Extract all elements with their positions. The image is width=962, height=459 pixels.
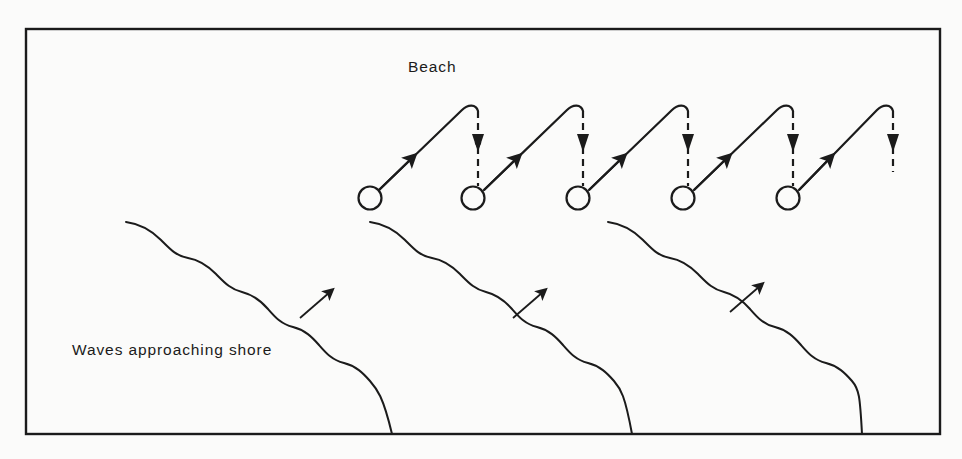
backwash-arrowhead: [577, 134, 589, 152]
swash-uprush-line: [379, 106, 478, 190]
swash-path-group: [359, 106, 900, 210]
sediment-particle: [672, 187, 695, 210]
swash-path: [799, 106, 899, 190]
swash-uprush-line: [589, 106, 688, 190]
swash-uprush-arrowhead-line: [799, 158, 830, 190]
wave-direction-arrow-group: [300, 286, 760, 318]
wave-crest-line: [608, 222, 862, 434]
backwash-arrowhead: [787, 134, 799, 152]
sediment-particle: [777, 187, 800, 210]
swash-path: [379, 106, 484, 190]
wave-crest-line: [126, 222, 392, 434]
beach-drift-diagram: Beach Waves approaching shore: [0, 0, 962, 459]
backwash-arrowhead: [887, 134, 899, 152]
beach-label: Beach: [408, 58, 456, 75]
swash-uprush-arrowhead-line: [379, 158, 412, 190]
swash-uprush-line: [799, 106, 893, 190]
backwash-arrowhead: [472, 134, 484, 152]
swash-uprush-line: [484, 106, 583, 190]
swash-uprush-arrowhead-line: [484, 158, 517, 190]
figure-page: Beach Waves approaching shore: [0, 0, 962, 459]
sediment-particle: [567, 187, 590, 210]
swash-path: [694, 106, 799, 190]
sediment-particle: [359, 187, 382, 210]
backwash-arrowhead: [682, 134, 694, 152]
waves-approaching-shore-label: Waves approaching shore: [72, 341, 272, 358]
swash-uprush-line: [694, 106, 793, 190]
wave-direction-arrow: [513, 292, 543, 318]
sediment-particle-group: [359, 187, 800, 210]
figure-border: [26, 29, 940, 434]
wave-direction-arrow: [300, 292, 330, 318]
wave-direction-arrow: [730, 286, 760, 312]
swash-uprush-arrowhead-line: [589, 158, 622, 190]
sediment-particle: [462, 187, 485, 210]
swash-path: [484, 106, 589, 190]
wave-crest-group: [126, 222, 862, 434]
swash-uprush-arrowhead-line: [694, 158, 727, 190]
wave-crest-line: [370, 222, 632, 434]
swash-path: [589, 106, 694, 190]
